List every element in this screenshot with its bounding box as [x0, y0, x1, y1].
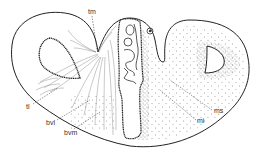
- central-column: [118, 19, 143, 139]
- label-tl: tl: [26, 103, 30, 110]
- stippled-region-right: [146, 26, 246, 142]
- label-ms: ms: [214, 107, 223, 114]
- label-tm: tm: [88, 8, 96, 15]
- label-bvl: bvl: [46, 119, 55, 126]
- label-mi: mi: [197, 117, 204, 124]
- label-bvm: bvm: [64, 129, 77, 136]
- left-cavity: [39, 38, 80, 78]
- cross-section-diagram: [0, 0, 260, 154]
- stipple-lower-left: [70, 95, 115, 130]
